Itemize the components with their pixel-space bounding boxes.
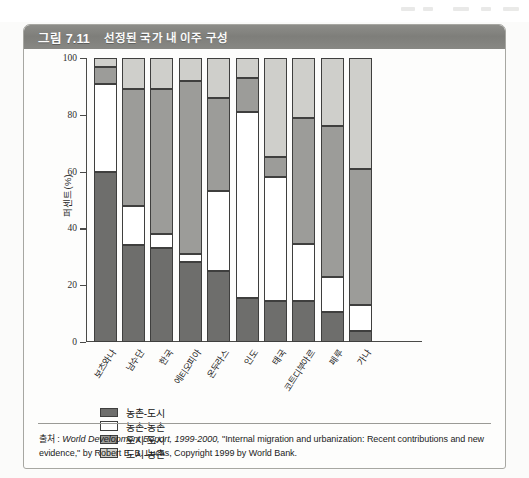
x-axis-label-남수단: 남수단	[123, 347, 147, 374]
bar-segment[interactable]	[122, 245, 145, 342]
x-axis-label-인도: 인도	[241, 347, 261, 367]
bar-segment[interactable]	[94, 58, 117, 67]
y-axis-tick-label: 60	[68, 167, 78, 177]
bar-segment[interactable]	[94, 84, 117, 172]
y-axis-tick-label: 80	[68, 110, 78, 120]
bar-segment[interactable]	[179, 262, 202, 342]
bar-segment[interactable]	[207, 98, 230, 192]
x-axis-label-페루: 페루	[326, 347, 346, 367]
y-axis-tick	[80, 172, 86, 173]
x-axis-label-태국: 태국	[269, 347, 289, 367]
bar-segment[interactable]	[349, 58, 372, 169]
bar-segment[interactable]	[207, 58, 230, 98]
bar-segment[interactable]	[349, 169, 372, 305]
bar-segment[interactable]	[292, 58, 315, 118]
bar-segment[interactable]	[349, 305, 372, 331]
bar-코트디부아르[interactable]: 코트디부아르	[292, 58, 315, 342]
bar-segment[interactable]	[122, 89, 145, 205]
bar-가나[interactable]: 가나	[349, 58, 372, 342]
bar-segment[interactable]	[236, 298, 259, 342]
x-axis-label-보츠와나: 보츠와나	[90, 347, 118, 380]
bar-segment[interactable]	[150, 58, 173, 89]
y-axis-tick	[80, 58, 86, 59]
source-note: 출처 : World Development Report, 1999-2000…	[39, 432, 490, 460]
plot-area: 020406080100 보츠와나남수단한국에티오피아온두라스인도태국코트디부아…	[86, 58, 406, 342]
bar-페루[interactable]: 페루	[321, 58, 344, 342]
x-axis-label-에티오피아: 에티오피아	[171, 347, 204, 387]
bar-segment[interactable]	[207, 271, 230, 342]
bar-인도[interactable]: 인도	[236, 58, 259, 342]
figure-title: 선정된 국가 내 이주 구성	[104, 29, 228, 45]
y-axis-line	[86, 58, 87, 342]
source-divider	[38, 423, 491, 424]
y-axis-tick	[80, 115, 86, 116]
bar-segment[interactable]	[179, 81, 202, 254]
legend-swatch-icon	[100, 408, 118, 418]
bar-segment[interactable]	[264, 157, 287, 177]
bar-segment[interactable]	[264, 177, 287, 301]
scan-corner-marks	[401, 4, 521, 14]
figure-container: 그림 7.11 선정된 국가 내 이주 구성 퍼센트(%) 0204060801…	[23, 24, 506, 469]
source-prefix: 출처 :	[39, 434, 62, 444]
bar-segment[interactable]	[150, 234, 173, 248]
bar-segment[interactable]	[321, 58, 344, 126]
bar-segment[interactable]	[236, 112, 259, 298]
page-background: 그림 7.11 선정된 국가 내 이주 구성 퍼센트(%) 0204060801…	[0, 0, 529, 478]
y-axis-tick	[80, 342, 86, 343]
bar-segment[interactable]	[292, 244, 315, 301]
chart-area: 퍼센트(%) 020406080100 보츠와나남수단한국에티오피아온두라스인도…	[24, 49, 505, 441]
y-axis-tick-label: 100	[63, 53, 77, 63]
bar-한국[interactable]: 한국	[150, 58, 173, 342]
bar-segment[interactable]	[94, 67, 117, 84]
y-axis-tick	[80, 228, 86, 229]
bar-segment[interactable]	[179, 58, 202, 81]
bar-segment[interactable]	[321, 126, 344, 277]
bar-segment[interactable]	[349, 331, 372, 342]
bar-segment[interactable]	[150, 248, 173, 342]
y-axis-tick-label: 0	[72, 337, 77, 347]
bar-segment[interactable]	[179, 254, 202, 263]
bar-segment[interactable]	[264, 301, 287, 342]
bar-segment[interactable]	[264, 58, 287, 157]
bar-에티오피아[interactable]: 에티오피아	[179, 58, 202, 342]
bar-태국[interactable]: 태국	[264, 58, 287, 342]
bar-segment[interactable]	[122, 206, 145, 246]
bar-segment[interactable]	[236, 78, 259, 112]
y-axis-tick-label: 20	[68, 280, 78, 290]
bar-남수단[interactable]: 남수단	[122, 58, 145, 342]
x-axis-label-온두라스: 온두라스	[204, 347, 232, 380]
bar-온두라스[interactable]: 온두라스	[207, 58, 230, 342]
y-axis-title: 퍼센트(%)	[60, 174, 74, 217]
x-axis-label-한국: 한국	[156, 347, 176, 367]
bar-보츠와나[interactable]: 보츠와나	[94, 58, 117, 342]
figure-number: 그림 7.11	[38, 28, 90, 47]
figure-title-bar: 그림 7.11 선정된 국가 내 이주 구성	[24, 25, 505, 49]
bar-segment[interactable]	[321, 312, 344, 342]
legend-item-농촌-도시[interactable]: 농촌-도시	[100, 407, 165, 418]
x-axis-label-가나: 가나	[355, 347, 375, 367]
y-axis-tick	[80, 285, 86, 286]
source-publication: World Development Report, 1999-2000,	[62, 434, 219, 444]
bar-segment[interactable]	[321, 277, 344, 313]
bar-segment[interactable]	[207, 191, 230, 271]
bar-segment[interactable]	[292, 301, 315, 342]
y-axis-tick-label: 40	[68, 223, 78, 233]
bar-segment[interactable]	[292, 118, 315, 244]
bar-segment[interactable]	[150, 89, 173, 234]
bar-segment[interactable]	[236, 58, 259, 78]
bar-segment[interactable]	[122, 58, 145, 89]
bar-segment[interactable]	[94, 172, 117, 342]
